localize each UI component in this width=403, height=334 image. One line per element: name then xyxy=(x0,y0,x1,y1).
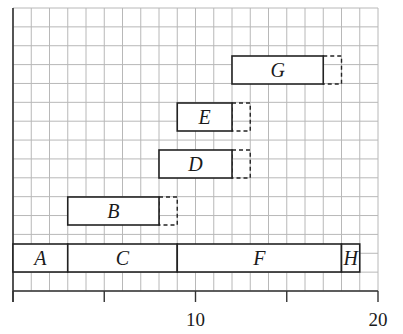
float-box xyxy=(323,56,341,84)
x-tick-label: 20 xyxy=(369,309,388,330)
activity-C: C xyxy=(68,244,178,272)
activity-label: A xyxy=(32,247,47,269)
x-tick-label: 10 xyxy=(186,309,205,330)
activity-H: H xyxy=(342,244,360,272)
activity-A: A xyxy=(13,244,68,272)
activity-F: F xyxy=(177,244,341,272)
activity-label: H xyxy=(342,247,359,269)
activity-label: E xyxy=(198,106,211,128)
activity-B: B xyxy=(68,197,178,225)
gantt-chart: 1020 ACFHBDEG xyxy=(0,0,403,334)
activity-bars: ACFHBDEG xyxy=(13,56,360,272)
activity-D: D xyxy=(159,150,250,178)
activity-label: G xyxy=(270,59,285,81)
float-box xyxy=(232,103,250,131)
activity-label: C xyxy=(116,247,130,269)
activity-G: G xyxy=(232,56,342,84)
activity-label: D xyxy=(187,153,203,175)
float-box xyxy=(232,150,250,178)
activity-label: B xyxy=(107,200,119,222)
activity-label: F xyxy=(252,247,266,269)
float-box xyxy=(159,197,177,225)
activity-E: E xyxy=(177,103,250,131)
